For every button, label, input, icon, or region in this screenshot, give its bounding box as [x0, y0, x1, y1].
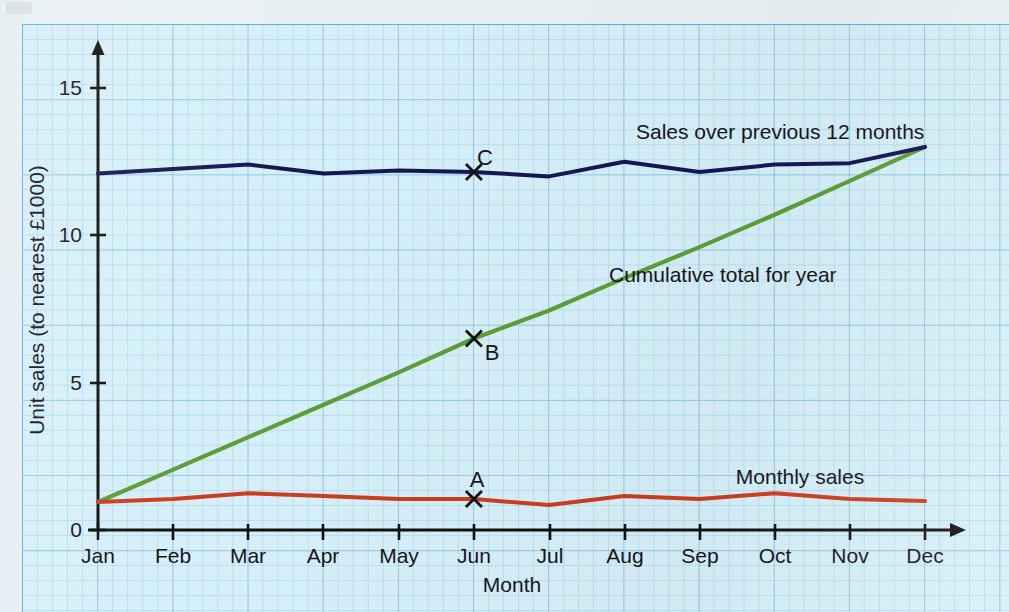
- y-tick-label-5: 5: [70, 371, 82, 394]
- x-tick-label-jan: Jan: [81, 544, 115, 567]
- series-line-cumulative-total: [98, 147, 925, 502]
- x-tick-label-jul: Jul: [537, 544, 564, 567]
- x-tick-label-feb: Feb: [155, 544, 191, 567]
- x-tick-label-aug: Aug: [606, 544, 643, 567]
- y-tick-label-15: 15: [59, 76, 82, 99]
- x-tick-label-jun: Jun: [457, 544, 491, 567]
- x-axis-title: Month: [483, 573, 541, 596]
- y-tick-label-10: 10: [59, 223, 82, 246]
- y-axis-title: Unit sales (to nearest £1000): [25, 165, 48, 435]
- x-axis-arrow-icon: [950, 523, 966, 537]
- x-tick-label-may: May: [379, 544, 419, 567]
- x-tick-label-nov: Nov: [831, 544, 869, 567]
- point-label-a: A: [470, 467, 485, 492]
- series-annotation-monthly-sales: Monthly sales: [736, 465, 864, 488]
- series-line-previous-12-months: [98, 147, 925, 176]
- x-tick-label-oct: Oct: [759, 544, 792, 567]
- y-axis-arrow-icon: [92, 40, 105, 55]
- x-tick-label-dec: Dec: [906, 544, 943, 567]
- point-label-b: B: [485, 340, 500, 365]
- x-tick-label-sep: Sep: [681, 544, 718, 567]
- point-label-c: C: [477, 145, 493, 170]
- line-chart: 15 10 5 0 Jan Feb Mar Apr May Jun Jul Au…: [0, 0, 1009, 612]
- y-tick-label-0: 0: [70, 518, 82, 541]
- series-line-monthly-sales: [98, 493, 925, 505]
- series-annotation-cumulative-total: Cumulative total for year: [609, 263, 837, 286]
- x-tick-label-apr: Apr: [307, 544, 340, 567]
- series-annotation-previous-12-months: Sales over previous 12 months: [636, 120, 924, 143]
- x-tick-label-mar: Mar: [230, 544, 266, 567]
